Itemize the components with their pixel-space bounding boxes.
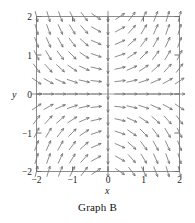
field-arrow <box>127 118 137 122</box>
field-arrow <box>58 154 63 164</box>
field-arrow <box>126 79 137 82</box>
field-arrow <box>46 141 51 151</box>
field-arrow <box>57 128 64 137</box>
field-arrow <box>165 37 170 47</box>
field-arrow <box>107 76 109 87</box>
field-arrow <box>126 93 137 95</box>
field-arrow <box>153 24 158 34</box>
x-tick-label: −2 <box>31 175 41 185</box>
y-tick-label: 1 <box>27 51 32 61</box>
field-arrow <box>68 65 77 71</box>
field-arrow <box>164 64 171 72</box>
field-arrow <box>67 105 77 109</box>
field-arrow <box>44 104 54 109</box>
field-arrow <box>58 24 63 34</box>
field-arrow <box>152 128 159 137</box>
field-arrow <box>140 141 147 150</box>
field-arrow <box>69 154 75 163</box>
field-arrow <box>55 79 65 83</box>
field-arrow <box>162 93 173 95</box>
field-arrow <box>45 116 52 124</box>
y-tick-labels: 2 1 0 −1 −2 <box>22 12 32 177</box>
y-tick-label: 2 <box>27 12 32 22</box>
y-tick-label: 0 <box>27 90 32 100</box>
field-arrow <box>58 141 63 151</box>
field-arrow <box>80 130 89 136</box>
y-tick-label: −1 <box>22 129 32 139</box>
field-arrow <box>164 116 171 124</box>
field-arrow <box>68 129 76 137</box>
field-arrow <box>91 156 101 161</box>
field-arrow <box>80 155 87 163</box>
field-arrow <box>57 51 64 60</box>
field-arrow <box>69 141 76 150</box>
field-arrow <box>46 128 52 137</box>
field-arrow <box>67 93 78 95</box>
field-arrow <box>107 50 109 61</box>
field-arrow <box>140 51 148 59</box>
field-arrow <box>115 119 126 122</box>
field-arrow <box>80 52 89 58</box>
field-arrow <box>79 80 90 83</box>
field-arrow <box>128 142 136 149</box>
field-arrow <box>139 117 148 123</box>
field-arrow <box>114 93 125 95</box>
field-arrow <box>139 105 149 109</box>
field-arrow <box>165 128 171 137</box>
field-arrow <box>91 27 101 32</box>
field-arrow <box>140 38 147 47</box>
field-arrow <box>152 65 160 72</box>
field-arrow <box>107 127 109 138</box>
field-arrow <box>46 51 52 60</box>
field-arrow <box>152 116 160 123</box>
field-arrow <box>115 143 125 147</box>
field-arrow <box>68 117 77 123</box>
field-arrow <box>115 40 125 44</box>
field-arrow <box>55 105 65 109</box>
field-arrow <box>69 38 76 47</box>
direction-field-plot: −2 −1 0 1 2 2 1 0 −1 −2 <box>0 0 195 223</box>
field-arrow <box>91 54 101 58</box>
field-arrow <box>128 25 135 33</box>
field-arrow <box>115 53 125 57</box>
field-arrow <box>126 106 137 109</box>
field-arrow <box>139 65 148 71</box>
field-arrow <box>152 51 159 60</box>
field-arrow <box>79 118 89 122</box>
field-arrow <box>165 141 170 151</box>
field-arrow <box>58 38 63 48</box>
field-arrow <box>140 129 148 137</box>
x-tick-label: 2 <box>177 175 182 185</box>
field-arrow <box>80 25 87 33</box>
field-arrow <box>153 38 158 48</box>
field-arrow <box>68 51 76 59</box>
field-arrow <box>79 93 90 95</box>
field-arrow <box>150 93 161 95</box>
field-arrow <box>91 131 101 135</box>
field-arrow <box>47 24 51 34</box>
field-arrow <box>128 155 135 163</box>
y-tick-label: −2 <box>22 167 32 177</box>
field-arrow <box>91 40 101 44</box>
field-arrow <box>115 66 126 69</box>
field-arrow <box>107 101 109 112</box>
field-arrow <box>127 66 137 70</box>
field-arrow <box>91 67 102 70</box>
field-arrow <box>127 52 136 58</box>
x-tick-label: −1 <box>67 175 77 185</box>
field-arrow <box>166 24 170 34</box>
field-arrow <box>91 105 102 107</box>
field-arrow <box>91 143 101 147</box>
field-arrow <box>114 80 125 82</box>
field-arrow <box>67 79 77 83</box>
field-arrow <box>107 63 109 74</box>
field-arrow <box>166 153 170 163</box>
field-arrow <box>115 156 125 161</box>
field-arrow <box>153 141 158 151</box>
field-arrow <box>107 114 109 125</box>
field-arrow <box>55 93 66 95</box>
slope-field-arrows <box>31 11 185 177</box>
field-arrow <box>139 79 149 83</box>
field-arrow <box>107 153 109 164</box>
field-arrow <box>56 116 64 123</box>
